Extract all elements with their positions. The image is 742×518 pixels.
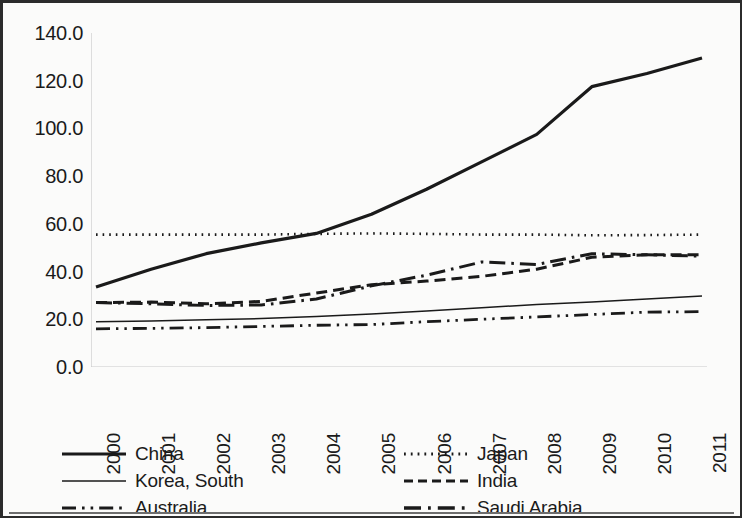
legend-item-india[interactable]: India (403, 468, 742, 494)
legend-line-swatch (403, 447, 469, 461)
legend-line-swatch (61, 447, 127, 461)
legend-label-australia: Australia (135, 497, 207, 518)
series-line-japan (96, 233, 702, 235)
line-chart-svg (91, 33, 707, 367)
legend-item-korea-south[interactable]: Korea, South (61, 468, 403, 494)
chart-figure: 140.0120.0100.080.060.040.020.00.0 20002… (0, 0, 742, 518)
plot-area (91, 33, 707, 367)
legend-label-india: India (477, 470, 517, 492)
y-tick-label: 20.0 (9, 308, 83, 331)
legend-label-saudi-arabia: Saudi Arabia (477, 497, 582, 518)
legend-swatch-japan (403, 447, 469, 461)
legend-item-australia[interactable]: Australia (61, 495, 403, 518)
x-axis: 2000200120022003200420052006200720082009… (91, 371, 707, 441)
y-tick-label: 140.0 (9, 22, 83, 45)
y-tick-label: 120.0 (9, 69, 83, 92)
legend-label-japan: Japan (477, 443, 528, 465)
axis-lines (91, 33, 707, 367)
legend-item-japan[interactable]: Japan (403, 441, 742, 467)
legend-divider (9, 512, 734, 514)
y-tick-label: 40.0 (9, 260, 83, 283)
y-tick-label: 0.0 (9, 356, 83, 379)
legend-item-china[interactable]: China (61, 441, 403, 467)
legend-swatch-india (403, 474, 469, 488)
legend-label-korea-south: Korea, South (135, 470, 244, 492)
legend-item-saudi-arabia[interactable]: Saudi Arabia (403, 495, 742, 518)
series-line-india (96, 255, 702, 304)
y-tick-label: 80.0 (9, 165, 83, 188)
legend-swatch-china (61, 447, 127, 461)
chart-legend: ChinaKorea, SouthAustraliaJapanIndiaSaud… (3, 441, 742, 518)
y-tick-label: 60.0 (9, 212, 83, 235)
series-line-korea-south (96, 296, 702, 322)
legend-line-swatch (61, 474, 127, 488)
series-line-saudi-arabia (96, 254, 702, 306)
legend-label-china: China (135, 443, 184, 465)
legend-swatch-korea-south (61, 474, 127, 488)
y-tick-label: 100.0 (9, 117, 83, 140)
legend-line-swatch (403, 474, 469, 488)
